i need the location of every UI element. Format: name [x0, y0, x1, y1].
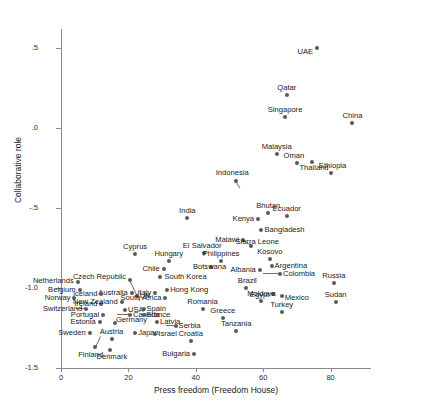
data-point[interactable]	[192, 352, 196, 356]
x-axis-line	[61, 368, 371, 369]
x-axis-tick-label: 60	[248, 374, 278, 382]
data-point-label: Qatar	[277, 84, 296, 92]
data-point[interactable]	[259, 228, 263, 232]
data-point[interactable]	[162, 267, 166, 271]
data-point[interactable]	[285, 93, 289, 97]
data-point-label: India	[179, 207, 195, 215]
data-point[interactable]	[315, 46, 319, 50]
data-point[interactable]	[165, 288, 169, 292]
data-point-label: Colombia	[283, 270, 315, 278]
data-point-label: Kenya	[233, 215, 255, 223]
data-point[interactable]	[167, 259, 171, 263]
data-point[interactable]	[120, 300, 124, 304]
data-point-label: Sierra Leone	[235, 238, 278, 246]
data-point[interactable]	[101, 313, 105, 317]
data-point[interactable]	[185, 216, 189, 220]
data-point[interactable]	[280, 310, 284, 314]
data-point[interactable]	[234, 329, 238, 333]
data-point-label: Moldova	[247, 290, 276, 298]
y-axis-tick-label: -1.5	[8, 364, 38, 372]
data-point-label: Romania	[187, 298, 217, 306]
data-point-label: Norway	[45, 294, 71, 302]
data-point[interactable]	[133, 252, 137, 256]
x-axis-tick	[128, 368, 129, 372]
data-point[interactable]	[88, 331, 92, 335]
data-point[interactable]	[98, 320, 102, 324]
data-point-label: Bulgaria	[162, 350, 190, 358]
x-axis-tick	[331, 368, 332, 372]
data-point-label: Malaysia	[262, 143, 292, 151]
data-point-label: South Africa	[121, 294, 162, 302]
data-point-label: Germany	[116, 316, 147, 324]
data-point-label: Netherlands	[33, 277, 74, 285]
data-point-label: Philippines	[203, 250, 240, 258]
data-point[interactable]	[295, 161, 299, 165]
data-point[interactable]	[270, 264, 274, 268]
data-point[interactable]	[158, 275, 162, 279]
data-point[interactable]	[332, 281, 336, 285]
data-point[interactable]	[283, 115, 287, 119]
data-point[interactable]	[163, 296, 167, 300]
data-point-label: Brazil	[238, 277, 257, 285]
data-point[interactable]	[155, 320, 159, 324]
data-point-label: Albania	[230, 266, 255, 274]
data-point-label: South Korea	[164, 273, 206, 281]
y-axis-tick	[56, 128, 61, 129]
data-point[interactable]	[275, 152, 279, 156]
data-point[interactable]	[110, 337, 114, 341]
data-point[interactable]	[329, 171, 333, 175]
data-point[interactable]	[285, 214, 289, 218]
data-point[interactable]	[350, 121, 354, 125]
x-axis-tick-label: 80	[316, 374, 346, 382]
data-point[interactable]	[128, 278, 132, 282]
y-axis-line	[61, 29, 62, 369]
data-point[interactable]	[133, 331, 137, 335]
data-point[interactable]	[258, 268, 262, 272]
data-point[interactable]	[93, 345, 97, 349]
data-point-label: Austria	[100, 328, 124, 336]
data-point-label: Estonia	[70, 318, 95, 326]
data-point[interactable]	[201, 307, 205, 311]
scatter-plot-figure: 020406080.5.0-.5-1.0-1.5 UAEQatarChinaSi…	[0, 0, 437, 408]
data-point-label: Kosovo	[257, 248, 282, 256]
y-axis-tick-label: -1.0	[8, 284, 38, 292]
x-axis-tick-label: 40	[181, 374, 211, 382]
y-axis-tick	[56, 48, 61, 49]
data-point-label: Hungary	[154, 250, 183, 258]
data-point-label: China	[343, 112, 363, 120]
data-point[interactable]	[266, 211, 270, 215]
data-point-label: Greece	[210, 307, 235, 315]
data-point[interactable]	[259, 299, 263, 303]
plot-area: 020406080.5.0-.5-1.0-1.5 UAEQatarChinaSi…	[0, 0, 437, 408]
y-axis-tick	[56, 368, 61, 369]
data-point-label: Oman	[284, 152, 305, 160]
data-point[interactable]	[234, 179, 238, 183]
data-point-label: Indonesia	[216, 169, 249, 177]
data-point[interactable]	[268, 257, 272, 261]
x-axis-tick	[196, 368, 197, 372]
x-axis-tick-label: 0	[46, 374, 76, 382]
data-point-label: Singapore	[268, 106, 303, 114]
data-point-label: Tanzania	[221, 320, 251, 328]
data-point-label: Bangladesh	[264, 226, 304, 234]
data-point-label: Sweden	[58, 329, 85, 337]
data-point[interactable]	[278, 272, 282, 276]
data-point[interactable]	[256, 217, 260, 221]
data-point-label: Croatia	[178, 330, 202, 338]
data-point-label: Czech Republic	[73, 273, 126, 281]
data-point-label: Turkey	[270, 301, 293, 309]
data-point[interactable]	[123, 308, 127, 312]
data-point-label: Botswana	[193, 263, 226, 271]
x-axis-tick	[61, 368, 62, 372]
data-point[interactable]	[280, 294, 284, 298]
data-point[interactable]	[334, 300, 338, 304]
data-point[interactable]	[189, 339, 193, 343]
data-point[interactable]	[174, 324, 178, 328]
y-axis-tick-label: .5	[8, 44, 38, 52]
data-point-label: Hong Kong	[170, 286, 208, 294]
data-point-label: Ecuador	[273, 205, 301, 213]
data-point-label: Denmark	[96, 353, 127, 361]
data-point-label: Chile	[142, 265, 159, 273]
y-axis-tick	[56, 208, 61, 209]
x-axis-tick	[263, 368, 264, 372]
